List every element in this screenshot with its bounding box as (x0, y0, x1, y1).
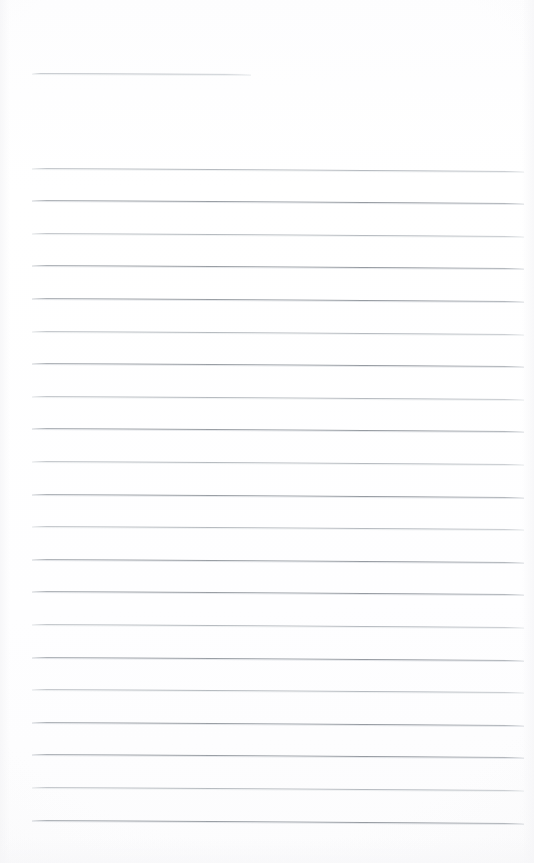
ruled-line-stroke (32, 526, 524, 530)
ruled-line (32, 657, 524, 660)
ruled-line (32, 820, 524, 823)
ruled-line-stroke (32, 428, 524, 432)
ruled-line (32, 722, 524, 725)
ruled-line (32, 200, 524, 203)
ruled-line (32, 363, 524, 366)
ruled-line-stroke (32, 820, 524, 824)
ruled-line (32, 787, 524, 790)
ruled-line (32, 265, 524, 268)
ruled-line-stroke (32, 722, 524, 726)
ruled-line-stroke (32, 331, 524, 335)
ruled-line-stroke (32, 200, 524, 204)
ruled-line-stroke (32, 787, 524, 791)
scan-edge-shading-bottom (0, 837, 534, 863)
ruled-line-stroke (32, 298, 524, 302)
ruled-line (32, 689, 524, 692)
ruled-line (32, 526, 524, 529)
ruled-line-stroke (32, 754, 524, 758)
ruled-line (32, 591, 524, 594)
ruled-line-stroke (32, 591, 524, 595)
ruled-line (32, 461, 524, 464)
header-rule (32, 73, 251, 74)
ruled-line-stroke (32, 233, 524, 237)
ruled-line (32, 428, 524, 431)
ruled-line (32, 494, 524, 497)
ruled-line (32, 754, 524, 757)
header-rule-stroke (32, 73, 251, 75)
scan-edge-shading-right (522, 0, 534, 863)
ruled-line (32, 331, 524, 334)
ruled-line-stroke (32, 657, 524, 661)
ruled-line-stroke (32, 168, 524, 172)
ruled-line (32, 396, 524, 399)
ruled-line-stroke (32, 559, 524, 563)
ruled-line-stroke (32, 624, 524, 628)
ruled-line-stroke (32, 363, 524, 367)
ruled-line (32, 298, 524, 301)
scan-edge-shading-left (0, 0, 10, 863)
ruled-line (32, 168, 524, 171)
scanned-page (0, 0, 534, 863)
ruled-line-stroke (32, 689, 524, 693)
ruled-line (32, 624, 524, 627)
ruled-line-stroke (32, 461, 524, 465)
ruled-line-stroke (32, 265, 524, 269)
paper-texture (0, 0, 534, 863)
ruled-line (32, 559, 524, 562)
ruled-line-stroke (32, 494, 524, 498)
ruled-line (32, 233, 524, 236)
ruled-line-stroke (32, 396, 524, 400)
